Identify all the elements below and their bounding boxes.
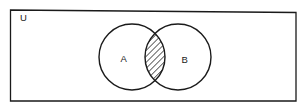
venn-diagram: U A B (0, 0, 306, 106)
universe-label: U (20, 12, 27, 23)
set-a-label: A (121, 53, 128, 64)
set-b-label: B (182, 54, 188, 65)
